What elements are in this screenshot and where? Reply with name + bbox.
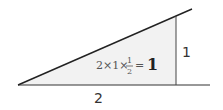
triangle-area-diagram: 1 2 2×1× 1 2 = 1 [0,0,223,110]
fraction-numerator: 1 [127,56,132,65]
height-label: 1 [182,44,191,60]
equation-result: 1 [147,55,158,74]
equation-left: 2×1× [96,59,128,72]
equation-equals: = [135,59,144,72]
fraction-denominator: 2 [127,67,132,76]
base-label: 2 [94,90,103,106]
